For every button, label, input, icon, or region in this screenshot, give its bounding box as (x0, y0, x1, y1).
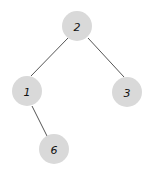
edge-1-6 (32, 106, 47, 136)
node-label: 1 (24, 86, 31, 99)
edge-2-3 (88, 38, 124, 77)
node-1: 1 (12, 76, 42, 106)
node-6: 6 (39, 134, 69, 164)
node-label: 3 (124, 87, 131, 100)
node-2: 2 (62, 11, 92, 41)
node-label: 6 (51, 144, 58, 157)
node-3: 3 (112, 77, 142, 107)
edge-2-1 (31, 38, 68, 76)
binary-tree-diagram: 2 1 3 6 (0, 0, 152, 176)
node-label: 2 (74, 21, 81, 34)
